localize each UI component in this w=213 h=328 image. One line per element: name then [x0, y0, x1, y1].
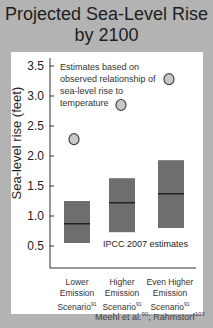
y-tick-label: 3.5: [16, 59, 44, 73]
y-tick-label: 0.5: [16, 239, 44, 253]
y-tick-label: 1.0: [16, 209, 44, 223]
x-category-higher: Higher Emission Scenario91: [96, 277, 148, 313]
range-bar: [109, 178, 135, 232]
y-tick-label: 2.0: [16, 149, 44, 163]
y-tick-label: 3.0: [16, 89, 44, 103]
y-tick-label: 1.5: [16, 179, 44, 193]
range-bar: [64, 201, 90, 243]
y-tick-label: 2.5: [16, 119, 44, 133]
annotation-observed: Estimates based on observed relationship…: [60, 61, 170, 109]
annotation-ipcc: IPCC 2007 estimates: [103, 239, 188, 249]
x-category-even-higher: Even Higher Emission Scenario91: [144, 277, 196, 313]
estimate-point: [69, 134, 79, 145]
source-citation: Meehl et al.90; Rahmstorf103: [95, 311, 205, 322]
